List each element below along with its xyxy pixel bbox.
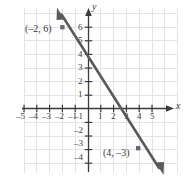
y-tick-label--2: –2 (74, 126, 83, 135)
y-tick-label-1: 1 (78, 90, 83, 99)
y-tick-label-2: 2 (78, 77, 83, 86)
y-tick-label-5: 5 (78, 36, 83, 45)
y-tick-label--4: –4 (74, 153, 83, 162)
y-tick-label--3: –3 (74, 139, 83, 148)
y-tick-label-4: 4 (78, 50, 83, 59)
x-tick-label--4: –4 (29, 112, 38, 121)
x-tick-label-5: 5 (150, 112, 155, 121)
x-tick-label-1: 1 (98, 112, 103, 121)
x-tick-label-4: 4 (137, 112, 142, 121)
point-label-lower-right: (4, –3) (103, 148, 130, 158)
point-marker-4-neg3 (136, 146, 140, 150)
y-axis (85, 8, 92, 172)
point-label-upper-left: (–2, 6) (25, 24, 52, 34)
x-axis-label: x (176, 101, 180, 111)
y-axis-label: y (92, 2, 96, 12)
y-tick-label-6: 6 (78, 23, 83, 32)
x-tick-label--2: –2 (55, 112, 64, 121)
x-tick-label--3: –3 (42, 112, 51, 121)
point-marker-neg2-6 (60, 25, 64, 29)
y-tick-label-3: 3 (78, 63, 83, 72)
coordinate-plane-figure: y x –5 –4 –3 –2 –1 1 2 3 4 5 6 5 4 3 2 1… (0, 0, 187, 182)
x-tick-label--5: –5 (16, 112, 25, 121)
x-tick-label-3: 3 (124, 112, 129, 121)
y-tick-label--1: –1 (74, 112, 83, 121)
x-tick-label-2: 2 (111, 112, 116, 121)
